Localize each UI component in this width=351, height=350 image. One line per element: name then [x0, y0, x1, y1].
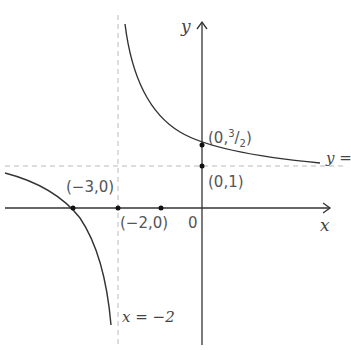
point-0-1 — [200, 164, 205, 169]
x-axis-label: x — [320, 217, 330, 234]
y-axis-label: y — [181, 18, 191, 35]
point-neg2-0 — [116, 206, 121, 211]
point-neg3-0 — [71, 206, 76, 211]
horizontal-asymptote-label: y = — [326, 151, 351, 166]
graph — [0, 0, 351, 350]
point-0-3half — [200, 143, 205, 148]
origin-label: 0 — [188, 216, 198, 231]
point-neg1-0 — [159, 206, 164, 211]
vertical-asymptote-label: x = −2 — [122, 310, 175, 325]
point-label-0-1: (0,1) — [208, 175, 244, 190]
point-label-0-3half: (0,3/2) — [208, 129, 252, 149]
point-label-neg2-0: (−2,0) — [120, 216, 168, 231]
point-label-neg3-0: (−3,0) — [66, 180, 114, 195]
